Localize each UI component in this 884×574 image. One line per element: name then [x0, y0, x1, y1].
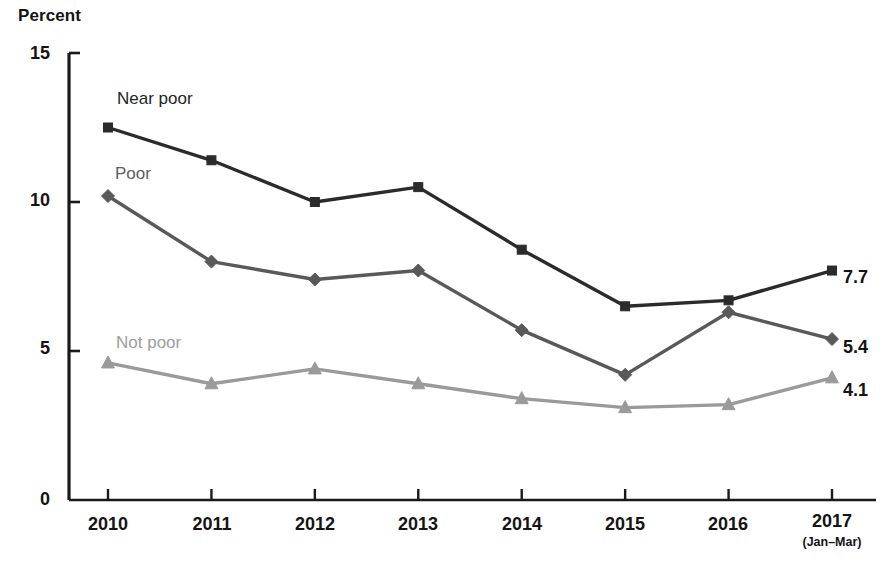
data-point [207, 156, 216, 165]
data-point [517, 245, 526, 254]
data-point [104, 123, 113, 132]
plot-area [0, 0, 884, 574]
data-point [826, 371, 839, 383]
data-point [102, 356, 115, 368]
data-point [826, 333, 839, 346]
data-point [724, 296, 733, 305]
data-point [308, 273, 321, 286]
axes [69, 53, 876, 500]
series-line [108, 196, 832, 375]
data-point [828, 266, 837, 275]
data-point [621, 302, 630, 311]
series-line [108, 128, 832, 307]
chart-container: Percent 15 10 5 0 2010 2011 2012 2013 20… [0, 0, 884, 574]
data-series-layer [102, 123, 839, 413]
data-point [310, 198, 319, 207]
series-not-poor [102, 356, 839, 413]
series-line [108, 363, 832, 408]
y-axis-ticks [69, 53, 80, 351]
data-point [414, 183, 423, 192]
x-axis-ticks [108, 489, 832, 500]
series-near-poor [104, 123, 837, 311]
